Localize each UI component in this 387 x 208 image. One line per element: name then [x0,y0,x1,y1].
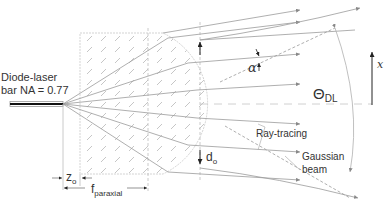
theta-dl-label: ΘDL [313,86,337,104]
gaussian-line2: beam [302,163,344,176]
alpha-symbol: α [248,60,257,75]
z-subscript: o [72,177,76,186]
alpha-label: α [248,61,257,74]
d-subscript: o [213,157,217,166]
theta-symbol: Θ [313,85,325,102]
f-paraxial-label: fparaxial [91,183,122,198]
d-symbol: d [206,150,213,164]
gaussian-leader [285,156,300,170]
theta-subscript: DL [325,93,338,104]
d-o-label: do [206,151,217,166]
laser-bar [10,102,63,107]
ray-tracing-label: Ray-tracing [256,129,307,139]
f-subscript: paraxial [94,189,122,198]
x-axis-label: x [377,59,383,70]
source-label-line1: Diode-laser [1,71,69,84]
source-label: Diode-laser bar NA = 0.77 [1,71,69,97]
optics-diagram [0,0,387,208]
gaussian-beam-label: Gaussian beam [302,150,344,176]
gaussian-line1: Gaussian [302,150,344,163]
alpha-arrow-top [256,49,259,56]
lens [80,33,208,174]
z-o-label: zo [66,171,76,186]
source-label-line2: bar NA = 0.77 [1,84,69,97]
